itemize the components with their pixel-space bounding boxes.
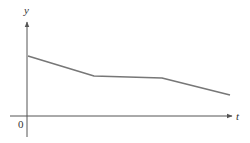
origin-label: 0 xyxy=(18,118,24,130)
line-chart: y t 0 xyxy=(0,0,250,143)
y-axis-label: y xyxy=(23,4,29,16)
x-axis-label: t xyxy=(236,110,240,122)
data-line xyxy=(28,56,230,95)
